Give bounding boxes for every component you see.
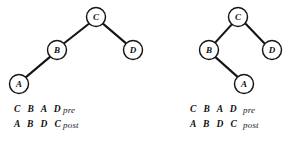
node-label-b: B (53, 45, 60, 55)
traversal-sequence: A B D C (190, 119, 239, 129)
edge-group-right (215, 24, 264, 77)
traversal-row-pre: C B A D pre (0, 104, 148, 119)
edge-b-a (215, 57, 237, 77)
tree-graph-right: C B D A (148, 0, 296, 105)
edge-c-b (215, 25, 231, 43)
traversal-order-label: pre (243, 105, 255, 115)
node-label-d: D (268, 45, 276, 55)
traversal-list-right: C B A D pre A B D C post (148, 104, 296, 134)
tree-diagram-left: C B D A C B A D pre A B D C post (0, 0, 148, 153)
traversal-order-label: post (63, 120, 79, 130)
edge-group-left (26, 24, 126, 78)
edge-c-d (245, 24, 264, 44)
traversal-row-post: A B D C post (0, 119, 148, 134)
node-group-right: C B D A (200, 8, 282, 94)
edge-c-b (64, 24, 89, 44)
node-label-c: C (235, 12, 242, 22)
edge-b-a (26, 57, 51, 78)
traversal-order-label: post (243, 120, 259, 130)
node-label-b: B (205, 45, 212, 55)
traversal-row-pre: C B A D pre (148, 104, 296, 119)
node-label-a: A (15, 79, 22, 89)
traversal-sequence: C B A D (14, 104, 63, 114)
node-label-c: C (93, 12, 100, 22)
binary-tree-figure: C B D A C B A D pre A B D C post (0, 0, 296, 153)
edge-c-d (103, 24, 126, 43)
tree-graph-left: C B D A (0, 0, 148, 105)
tree-diagram-right: C B D A C B A D pre A B D C post (148, 0, 296, 153)
traversal-row-post: A B D C post (148, 119, 296, 134)
node-group-left: C B D A (10, 8, 143, 94)
node-label-d: D (129, 45, 137, 55)
traversal-sequence: A B D C (14, 119, 63, 129)
traversal-list-left: C B A D pre A B D C post (0, 104, 148, 134)
traversal-sequence: C B A D (190, 104, 239, 114)
traversal-order-label: pre (63, 105, 75, 115)
node-label-a: A (240, 79, 247, 89)
